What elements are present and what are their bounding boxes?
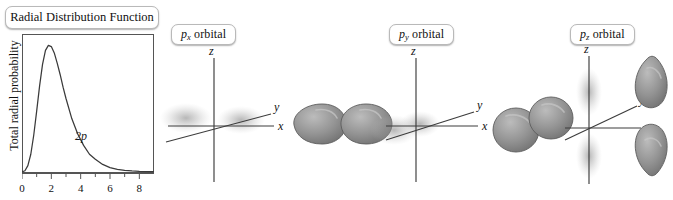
pz-axis-label-z: z	[583, 42, 589, 56]
pz-orbital-panel: z y x	[565, 44, 673, 192]
x-tick-label: 4	[78, 182, 84, 194]
px-axis-label-y: y	[273, 100, 280, 114]
chart-y-axis-label: Total radial probability	[7, 26, 22, 166]
x-tick-label: 6	[107, 182, 113, 194]
pz-orbital-graphic: z y x	[565, 44, 673, 192]
py-axis-label-x: x	[481, 119, 488, 133]
py-orbital-pill: py orbital	[389, 24, 454, 45]
curve-annotation-2p: 2p	[75, 129, 87, 144]
py-orbital-panel: z y x	[386, 44, 570, 192]
pz-orbital-pill: pz orbital	[570, 24, 635, 45]
x-tick-label: 0	[19, 182, 25, 194]
py-axis-label-z: z	[410, 44, 416, 58]
curve-2p-polyline	[22, 45, 154, 172]
py-orbital-label: py orbital	[399, 27, 444, 42]
x-axis-tick-labels: 02468	[22, 182, 154, 196]
pz-orbital-label: pz orbital	[580, 27, 625, 42]
x-tick-label: 8	[137, 182, 143, 194]
chart-curve	[22, 34, 154, 173]
px-orbital-suffix: orbital	[191, 27, 226, 41]
px-orbital-label: px orbital	[181, 27, 226, 42]
px-lobe-left	[294, 104, 346, 144]
rdf-title-pill: Radial Distribution Function	[5, 6, 159, 29]
pz-lobe-top	[635, 56, 667, 108]
px-orbital-pill: px orbital	[171, 24, 236, 45]
pz-lobe-bottom	[635, 124, 667, 176]
radial-distribution-chart: Total radial probability 02468 2p	[0, 32, 162, 200]
px-density-cloud-right	[217, 106, 265, 134]
rdf-title-text: Radial Distribution Function	[10, 10, 154, 25]
py-orbital-graphic: z y x	[386, 44, 570, 192]
px-axis-label-x: x	[277, 119, 284, 133]
pz-orbital-suffix: orbital	[590, 27, 625, 41]
pz-y-axis	[565, 106, 637, 140]
px-axis-label-z: z	[208, 44, 214, 58]
py-axis-label-y: y	[476, 98, 483, 112]
py-orbital-suffix: orbital	[409, 27, 444, 41]
px-density-cloud-left	[160, 103, 212, 133]
x-tick-label: 2	[49, 182, 55, 194]
px-orbital-panel: z y x	[166, 44, 386, 192]
px-orbital-graphic: z y x	[166, 44, 386, 192]
